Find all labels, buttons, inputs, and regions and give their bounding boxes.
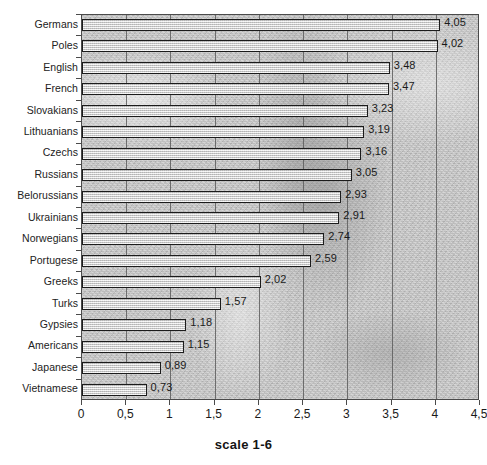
bars-layer: 4,054,023,483,473,233,193,163,052,932,91… (82, 15, 478, 399)
category-label: English (0, 61, 78, 73)
value-axis: 00,511,522,533,544,5 (81, 400, 479, 430)
bar-value-label: 1,57 (225, 295, 247, 307)
y-tick-mark (76, 357, 81, 358)
bar-value-label: 4,02 (442, 37, 464, 49)
bar-value-label: 2,02 (265, 273, 287, 285)
y-tick-mark (76, 57, 81, 58)
bar (82, 233, 324, 245)
bar (82, 62, 390, 74)
bar (82, 83, 389, 95)
bar (82, 298, 221, 310)
y-tick-mark (76, 293, 81, 294)
category-label: Belorussians (0, 189, 78, 201)
x-tick-label: 4 (431, 407, 438, 421)
category-label: Japanese (0, 361, 78, 373)
y-tick-mark (76, 207, 81, 208)
bar-row: 2,91 (82, 208, 479, 229)
bar (82, 384, 147, 396)
y-tick-mark (76, 100, 81, 101)
category-label: Poles (0, 39, 78, 51)
bar-row: 3,05 (82, 165, 479, 186)
bar (82, 362, 161, 374)
category-label: Russians (0, 168, 78, 180)
bar-value-label: 0,73 (151, 381, 173, 393)
bar-row: 4,05 (82, 15, 479, 36)
x-tick-mark (346, 400, 347, 405)
y-tick-mark (76, 271, 81, 272)
category-label: Lithuanians (0, 125, 78, 137)
bar-row: 3,16 (82, 144, 479, 165)
x-axis-title: scale 1-6 (0, 437, 487, 452)
y-tick-mark (76, 121, 81, 122)
plot-area: 4,054,023,483,473,233,193,163,052,932,91… (81, 14, 479, 400)
x-tick-mark (125, 400, 126, 405)
bar-row: 0,73 (82, 380, 479, 400)
y-tick-mark (76, 164, 81, 165)
bar-value-label: 2,91 (343, 209, 365, 221)
y-tick-mark (76, 186, 81, 187)
bar-value-label: 1,15 (188, 338, 210, 350)
x-tick-label: 1,5 (205, 407, 222, 421)
bar-row: 1,15 (82, 337, 479, 358)
bar-value-label: 3,19 (368, 123, 390, 135)
bar (82, 169, 352, 181)
category-label: Portugese (0, 254, 78, 266)
y-tick-mark (76, 35, 81, 36)
bar-value-label: 4,05 (444, 16, 466, 28)
x-tick-mark (391, 400, 392, 405)
bar (82, 276, 261, 288)
category-label: Slovakians (0, 104, 78, 116)
bar-row: 3,48 (82, 58, 479, 79)
bar-row: 2,93 (82, 187, 479, 208)
x-tick-label: 0,5 (117, 407, 134, 421)
x-tick-label: 1 (166, 407, 173, 421)
bar-value-label: 3,47 (393, 80, 415, 92)
bar (82, 255, 311, 267)
bar-value-label: 3,05 (356, 166, 378, 178)
bar-row: 1,18 (82, 315, 479, 336)
bar (82, 105, 368, 117)
y-tick-mark (76, 336, 81, 337)
y-tick-mark (76, 379, 81, 380)
bar (82, 148, 361, 160)
bar-row: 2,74 (82, 229, 479, 250)
category-label: Ukrainians (0, 211, 78, 223)
bar (82, 126, 364, 138)
y-tick-mark (76, 14, 81, 15)
bar-value-label: 2,74 (328, 230, 350, 242)
bar-row: 1,57 (82, 294, 479, 315)
y-tick-mark (76, 143, 81, 144)
bar-row: 3,47 (82, 79, 479, 100)
category-label: Turks (0, 297, 78, 309)
bar-value-label: 1,18 (190, 316, 212, 328)
category-label: Germans (0, 18, 78, 30)
bar (82, 319, 186, 331)
category-label: Norwegians (0, 232, 78, 244)
x-tick-mark (435, 400, 436, 405)
bar (82, 19, 440, 31)
x-tick-mark (169, 400, 170, 405)
y-tick-mark (76, 78, 81, 79)
bar (82, 341, 184, 353)
category-label: Gypsies (0, 318, 78, 330)
bar-row: 2,59 (82, 251, 479, 272)
x-tick-mark (479, 400, 480, 405)
bar-row: 3,23 (82, 101, 479, 122)
category-axis: GermansPolesEnglishFrenchSlovakiansLithu… (0, 14, 78, 400)
bar-row: 4,02 (82, 36, 479, 57)
category-label: French (0, 82, 78, 94)
bar-value-label: 0,89 (165, 359, 187, 371)
category-label: Vietnamese (0, 382, 78, 394)
y-tick-mark (76, 250, 81, 251)
y-tick-mark (76, 314, 81, 315)
x-tick-label: 3 (343, 407, 350, 421)
x-tick-mark (214, 400, 215, 405)
x-tick-mark (258, 400, 259, 405)
category-label: Greeks (0, 275, 78, 287)
bar (82, 40, 438, 52)
x-tick-label: 0 (78, 407, 85, 421)
bar-value-label: 3,23 (372, 102, 394, 114)
y-tick-mark (76, 228, 81, 229)
x-tick-label: 2,5 (294, 407, 311, 421)
x-tick-mark (302, 400, 303, 405)
